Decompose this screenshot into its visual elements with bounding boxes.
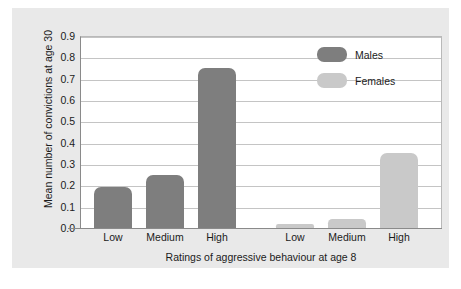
chart-panel: 0.00.10.20.30.40.50.60.70.80.9 Mean numb… bbox=[12, 8, 449, 268]
legend-item-males[interactable]: Males bbox=[317, 46, 383, 63]
chart-figure: 0.00.10.20.30.40.50.60.70.80.9 Mean numb… bbox=[0, 0, 461, 289]
x-tick-label: Medium bbox=[135, 231, 195, 243]
bar-males-low bbox=[94, 187, 132, 228]
bar-females-low bbox=[276, 224, 314, 228]
x-axis-line bbox=[68, 228, 442, 229]
y-axis-title: Mean number of convictions at age 30 bbox=[42, 21, 54, 217]
legend-swatch-icon bbox=[317, 47, 347, 62]
x-tick-label: Medium bbox=[317, 231, 377, 243]
legend-label: Males bbox=[355, 49, 383, 61]
bar-males-high bbox=[198, 68, 236, 228]
bar-males-medium bbox=[146, 175, 184, 228]
x-axis-title: Ratings of aggressive behaviour at age 8 bbox=[80, 251, 442, 263]
legend-label: Females bbox=[355, 75, 395, 87]
legend-swatch-icon bbox=[317, 73, 347, 88]
legend-item-females[interactable]: Females bbox=[317, 72, 395, 89]
x-tick-label: Low bbox=[265, 231, 325, 243]
bar-females-medium bbox=[328, 219, 366, 228]
x-tick-label: Low bbox=[83, 231, 143, 243]
bar-females-high bbox=[380, 153, 418, 228]
x-tick-label: High bbox=[369, 231, 429, 243]
chart-legend: MalesFemales bbox=[317, 46, 437, 94]
x-axis-tick-labels: LowMediumHighLowMediumHigh bbox=[80, 231, 442, 247]
x-tick-label: High bbox=[187, 231, 247, 243]
